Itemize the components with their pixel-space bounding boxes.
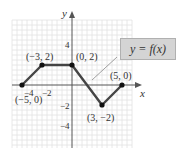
- tick-y-neg2: −2: [60, 101, 70, 111]
- tick-y-neg4: −4: [60, 121, 70, 131]
- point-neg3-2: [39, 62, 44, 67]
- y-axis-arrow-icon: [69, 11, 75, 18]
- label-point-5-0: (5, 0): [110, 70, 132, 82]
- point-0-2: [69, 62, 74, 67]
- label-point-0-2: (0, 2): [76, 51, 98, 63]
- tick-x-neg2: −2: [42, 88, 52, 98]
- point-neg5-0: [19, 82, 24, 87]
- y-axis-label: y: [61, 7, 67, 19]
- label-point-neg5-0: (−5, 0): [15, 94, 42, 106]
- function-label: y = f(x): [130, 42, 166, 57]
- point-5-0: [119, 82, 124, 87]
- tick-y-4: 4: [65, 40, 70, 50]
- label-point-3-neg2: (3, −2): [87, 112, 114, 124]
- function-graph: x y −4 −2 4 −2 −4 (−3, 2) (0, 2) (−5, 0)…: [0, 0, 179, 158]
- x-axis-label: x: [139, 87, 145, 99]
- graph-canvas: x y −4 −2 4 −2 −4 (−3, 2) (0, 2) (−5, 0)…: [0, 0, 179, 158]
- function-label-box: y = f(x): [120, 38, 176, 60]
- point-3-neg2: [99, 102, 104, 107]
- label-point-neg3-2: (−3, 2): [26, 51, 53, 63]
